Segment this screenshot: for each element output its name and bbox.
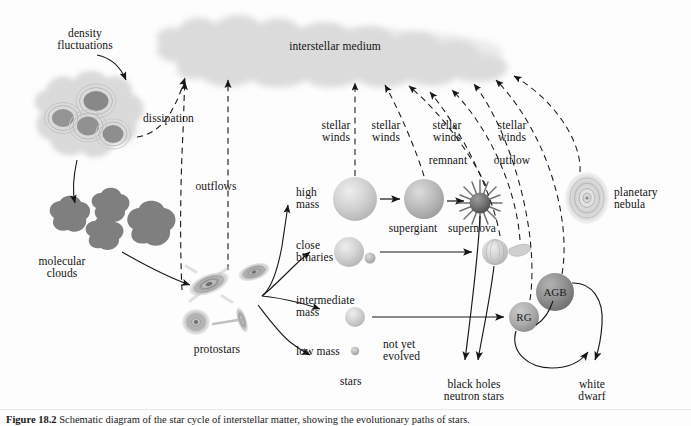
label-white-dwarf-line2: dwarf	[578, 390, 605, 403]
molecular-clouds	[50, 188, 176, 250]
intermediate-mass-star	[345, 307, 365, 327]
figure-caption-label: Figure 18.2	[6, 414, 57, 425]
label-stellar-winds-2-line2: winds	[372, 131, 400, 144]
arrow-stellar-winds-4	[474, 84, 532, 300]
label-protostars: protostars	[194, 343, 240, 356]
label-density-fluctuations-line2: fluctuations	[57, 39, 113, 52]
label-intermediate-mass-line1: intermediate	[296, 294, 355, 307]
arrow-supernova-to-compact	[465, 216, 480, 360]
arrow-density-to-molecular	[73, 160, 77, 203]
label-stellar-winds-4-line2: winds	[498, 131, 526, 144]
label-stellar-winds-1-line2: winds	[322, 131, 350, 144]
label-close-binaries-line1: close	[296, 239, 320, 252]
supergiant-star	[404, 179, 444, 219]
label-intermediate-mass-line2: mass	[296, 306, 319, 319]
label-stellar-winds-3-line1: stellar	[433, 119, 462, 132]
label-close-binaries-line2: binaries	[296, 251, 333, 264]
close-binary-companion	[365, 253, 376, 264]
density-fluctuation-cloud	[35, 71, 144, 158]
label-density-fluctuations-line1: density	[68, 27, 102, 40]
figure-root: interstellar medium density fluctuations…	[0, 0, 691, 426]
figure-caption: Figure 18.2 Schematic diagram of the sta…	[6, 414, 686, 426]
label-planetary-nebula-line1: planetary	[614, 186, 658, 199]
label-dissipation: dissipation	[143, 112, 194, 125]
label-molecular-clouds-line1: molecular	[39, 255, 86, 268]
caption-divider	[0, 409, 691, 410]
label-low-mass: low mass	[296, 345, 340, 358]
figure-caption-text: Schematic diagram of the star cycle of i…	[59, 414, 470, 425]
label-stars: stars	[340, 375, 362, 388]
arrow-binary-to-compact	[478, 266, 494, 360]
arrow-dissipation	[137, 78, 185, 137]
label-black-holes-line1: black holes	[447, 378, 500, 391]
label-supergiant: supergiant	[389, 222, 438, 235]
rg-star	[509, 302, 539, 332]
high-mass-star	[333, 177, 377, 221]
agb-star	[536, 273, 574, 311]
label-planetary-nebula-line2: nebula	[614, 198, 645, 211]
arrow-molecular-to-protostars	[122, 252, 190, 285]
label-stellar-winds-4-line1: stellar	[498, 119, 527, 132]
label-high-mass-line1: high	[296, 186, 317, 199]
label-outflows: outflows	[195, 180, 236, 193]
label-high-mass-line2: mass	[296, 198, 319, 211]
arrow-agb-to-white-dwarf	[572, 283, 602, 360]
label-black-holes-line2: neutron stars	[444, 390, 504, 403]
label-molecular-clouds-line2: clouds	[47, 267, 78, 280]
arrow-rg-to-white-dwarf	[515, 331, 588, 368]
label-stellar-winds-2-line1: stellar	[372, 119, 401, 132]
label-remnant: remnant	[429, 154, 467, 167]
label-stellar-winds-3-line2: winds	[433, 131, 461, 144]
close-binary-primary	[334, 237, 364, 267]
label-white-dwarf-line1: white	[579, 378, 605, 391]
mass-transfer-binary	[482, 239, 531, 265]
label-stellar-winds-1-line1: stellar	[322, 119, 351, 132]
label-not-yet-evolved-line2: evolved	[383, 350, 420, 363]
label-supernova: supernova	[448, 222, 496, 235]
label-not-yet-evolved-line1: not yet	[383, 338, 415, 351]
low-mass-star	[351, 347, 359, 355]
planetary-nebula	[565, 172, 609, 224]
protostar-disks	[182, 205, 320, 355]
label-outflow: outflow	[494, 154, 530, 167]
label-interstellar-medium: interstellar medium	[289, 40, 381, 53]
stellar-lifecycle-diagram	[0, 0, 691, 426]
